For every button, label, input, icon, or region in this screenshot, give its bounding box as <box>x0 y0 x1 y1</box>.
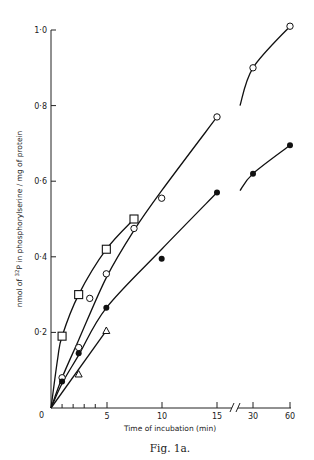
tick-labels: 00·20·40·60·81·0510153060 <box>34 26 295 421</box>
marker-open-circle <box>87 295 93 301</box>
x-tick-label: 15 <box>212 412 222 421</box>
curve-open-circles-late <box>240 26 290 105</box>
x-tick-label: 10 <box>157 412 167 421</box>
marker-open-circle <box>103 271 109 277</box>
marker-filled-circle <box>59 379 65 385</box>
marker-filled-circle <box>76 350 82 356</box>
y-tick-label: 0·4 <box>34 253 47 262</box>
y-tick-label: 1·0 <box>34 26 47 35</box>
figure-caption: Fig. 1a. <box>150 442 190 454</box>
marker-open-circle <box>158 195 164 201</box>
marker-open-circle <box>131 225 137 231</box>
marker-square <box>75 291 83 299</box>
marker-filled-circle <box>287 142 293 148</box>
marker-filled-circle <box>250 171 256 177</box>
marker-filled-circle <box>159 256 165 262</box>
marker-open-circle <box>75 344 81 350</box>
curves <box>51 26 290 408</box>
marker-square <box>58 332 66 340</box>
y-tick-label: 0·2 <box>34 328 47 337</box>
curve-triangles <box>51 331 106 408</box>
marker-triangle <box>103 327 110 334</box>
marker-filled-circle <box>103 305 109 311</box>
y-tick-label: 0·8 <box>34 102 47 111</box>
curve-open-circles <box>51 117 217 408</box>
axes <box>51 30 291 412</box>
x-axis-label: Time of incubation (min) <box>123 424 216 433</box>
marker-square <box>130 215 138 223</box>
y-axis-label: nmol of 32P in phosphorylserine / mg of … <box>14 130 24 307</box>
marker-filled-circle <box>214 190 220 196</box>
curve-filled-circles-late <box>240 145 290 190</box>
marker-square <box>102 245 110 253</box>
markers <box>58 23 293 385</box>
marker-open-circle <box>250 65 256 71</box>
x-tick-label: 30 <box>248 412 258 421</box>
marker-open-circle <box>287 23 293 29</box>
chart: 00·20·40·60·81·0510153060 Time of incuba… <box>0 0 314 460</box>
x-tick-label: 5 <box>104 412 109 421</box>
y-tick-label: 0·6 <box>34 177 47 186</box>
x-tick-label: 60 <box>285 412 295 421</box>
y-tick-label: 0 <box>39 411 44 420</box>
marker-open-circle <box>214 114 220 120</box>
